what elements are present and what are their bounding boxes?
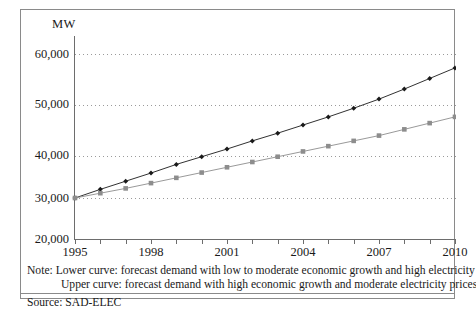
x-tick-2008 xyxy=(404,240,405,244)
data-point-lower-2005 xyxy=(326,144,331,149)
data-point-upper-2010 xyxy=(453,65,457,70)
data-point-lower-2004 xyxy=(301,149,306,154)
data-point-upper-1997 xyxy=(123,179,128,184)
data-point-lower-1999 xyxy=(174,176,179,181)
x-tick-2009 xyxy=(430,240,431,244)
x-tick-2004 xyxy=(303,240,304,244)
source-label: Source: SAD-ELEC xyxy=(27,296,121,310)
data-point-lower-1997 xyxy=(123,186,128,191)
data-point-upper-2001 xyxy=(225,147,230,152)
data-point-lower-1996 xyxy=(98,191,103,196)
x-tick-1998 xyxy=(151,240,152,244)
data-point-lower-2002 xyxy=(250,160,255,165)
data-point-lower-2006 xyxy=(351,139,356,144)
data-point-lower-2008 xyxy=(402,127,407,132)
data-point-upper-2009 xyxy=(427,76,432,81)
chart-series-layer xyxy=(21,10,456,242)
x-tick-label-1995: 1995 xyxy=(63,246,88,259)
x-tick-2007 xyxy=(379,240,380,244)
x-tick-label-2007: 2007 xyxy=(367,246,392,259)
x-tick-1999 xyxy=(176,240,177,244)
figure-frame: MW 60,000 50,000 40,000 30,000 20,000 19… xyxy=(20,9,455,299)
series-line-upper xyxy=(75,68,455,198)
x-tick-label-2010: 2010 xyxy=(443,246,468,259)
x-tick-2002 xyxy=(252,240,253,244)
data-point-upper-2004 xyxy=(301,123,306,128)
data-point-upper-2003 xyxy=(275,131,280,136)
data-point-lower-2009 xyxy=(427,121,432,126)
x-tick-2003 xyxy=(278,240,279,244)
x-tick-2006 xyxy=(354,240,355,244)
data-point-lower-2007 xyxy=(377,133,382,138)
data-point-lower-2003 xyxy=(275,154,280,159)
x-tick-2000 xyxy=(202,240,203,244)
x-tick-label-1998: 1998 xyxy=(139,246,164,259)
note-line-upper: Upper curve: forecast demand with high e… xyxy=(21,278,456,292)
x-tick-2010 xyxy=(455,240,456,244)
x-tick-1995 xyxy=(75,240,76,244)
data-point-upper-2000 xyxy=(199,154,204,159)
data-point-lower-2001 xyxy=(225,165,230,170)
chart-plot-area: MW 60,000 50,000 40,000 30,000 20,000 19… xyxy=(21,10,456,242)
x-tick-label-2004: 2004 xyxy=(291,246,316,259)
data-point-upper-1998 xyxy=(149,171,154,176)
data-point-upper-2002 xyxy=(250,138,255,143)
data-point-lower-1998 xyxy=(149,181,154,186)
x-tick-label-2001: 2001 xyxy=(215,246,240,259)
x-tick-2001 xyxy=(227,240,228,244)
data-point-lower-2000 xyxy=(199,170,204,175)
data-point-upper-2006 xyxy=(351,106,356,111)
x-tick-2005 xyxy=(328,240,329,244)
data-point-upper-1999 xyxy=(174,162,179,167)
x-tick-1996 xyxy=(100,240,101,244)
notes-divider xyxy=(21,293,454,294)
data-point-lower-1995 xyxy=(73,196,78,201)
data-point-upper-2008 xyxy=(402,87,407,92)
data-point-upper-2007 xyxy=(377,97,382,102)
notes-block: Note: Lower curve: forecast demand with … xyxy=(21,264,456,292)
data-point-upper-2005 xyxy=(326,114,331,119)
note-line-lower: Note: Lower curve: forecast demand with … xyxy=(21,264,456,278)
data-point-lower-2010 xyxy=(453,115,456,120)
series-line-lower xyxy=(75,117,455,198)
x-tick-1997 xyxy=(126,240,127,244)
